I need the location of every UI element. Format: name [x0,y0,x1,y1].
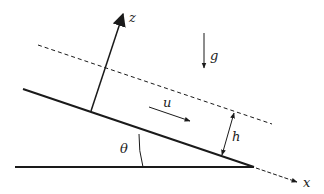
angle-label: θ [120,141,128,156]
velocity-label: u [163,95,171,110]
thickness-label: h [232,129,240,144]
inclined-plane-line [23,89,254,167]
gravity-label: g [210,48,218,63]
x-axis-label: x [303,175,311,190]
z-axis-arrow [91,14,123,111]
angle-arc [139,134,143,167]
x-axis-arrow [256,168,297,182]
z-axis-label: z [128,10,136,25]
inclined-film-diagram: z x g u h θ [0,0,324,194]
free-surface-dashed-line [38,45,272,124]
